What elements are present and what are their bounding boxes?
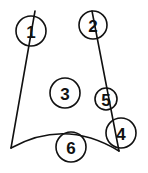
marker-label: 3 <box>60 85 69 104</box>
marker-label: 4 <box>116 125 126 144</box>
marker-5: 5 <box>95 88 117 110</box>
marker-1: 1 <box>16 16 46 46</box>
marker-label: 6 <box>66 139 75 158</box>
diagram-canvas: 123546 <box>0 0 148 173</box>
marker-4: 4 <box>106 118 136 148</box>
marker-label: 5 <box>101 91 110 110</box>
bottom-curve <box>11 134 119 151</box>
marker-3: 3 <box>50 78 80 108</box>
marker-label: 2 <box>88 17 97 36</box>
marker-label: 1 <box>26 23 35 42</box>
markers: 123546 <box>16 11 136 162</box>
marker-6: 6 <box>56 132 86 162</box>
